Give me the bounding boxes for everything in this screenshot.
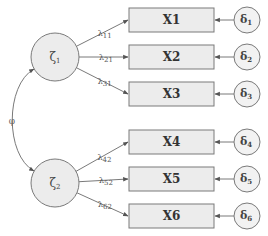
phi-label: φ (9, 116, 15, 126)
indicator-label: X5 (163, 172, 181, 186)
factor-covariance-arrow (12, 69, 34, 171)
loading-label: λ52 (99, 176, 113, 187)
loading-label: λ42 (97, 153, 111, 164)
indicator-label: X1 (163, 13, 181, 27)
cfa-path-diagram: φζ1ζ2λ11X1δ1λ21X2δ2λ31X3δ3λ42X4δ4λ52X5δ5… (0, 0, 268, 236)
loading-label: λ62 (98, 200, 112, 211)
loading-label: λ11 (98, 29, 112, 40)
indicator-label: X3 (163, 87, 181, 101)
loading-label: λ31 (98, 77, 112, 88)
loading-label: λ21 (99, 53, 113, 64)
indicator-label: X4 (163, 135, 181, 149)
nodes-layer (31, 7, 260, 229)
indicator-label: X2 (163, 50, 181, 64)
indicator-label: X6 (163, 209, 181, 223)
